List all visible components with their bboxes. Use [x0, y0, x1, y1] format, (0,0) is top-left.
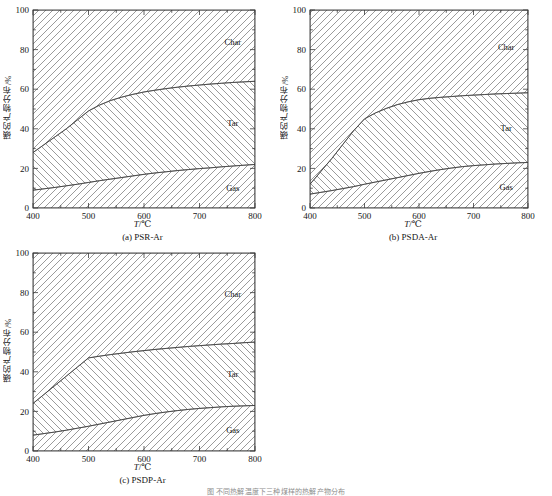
- y-tick-label: 100: [16, 5, 30, 15]
- plot-area-psr-ar: 400500600700800020406080100CharTarGas: [0, 0, 285, 248]
- region-label-char: Char: [225, 289, 242, 299]
- region-label-char: Char: [498, 42, 515, 52]
- panel-psda-ar: 磺的产物分布/% 400500600700800020406080100Char…: [274, 0, 552, 248]
- y-tick-label: 80: [297, 45, 307, 55]
- y-tick-label: 20: [20, 164, 30, 174]
- panel-caption-c: (c) PSDP-Ar: [0, 475, 285, 485]
- x-axis-label: T/℃: [0, 219, 285, 229]
- panel-psr-ar: 磺的产物分布/% 400500600700800020406080100Char…: [0, 0, 285, 248]
- plot-area-psdp-ar: 400500600700800020406080100CharTarGas: [0, 243, 285, 491]
- region-label-char: Char: [225, 37, 242, 47]
- region-label-tar: Tar: [501, 123, 512, 133]
- x-axis-label: T/℃: [0, 462, 285, 472]
- figure-footnote: 图 不同热解温度下三种煤样的热解产物分布: [0, 486, 552, 496]
- y-tick-label: 80: [20, 45, 30, 55]
- y-tick-label: 40: [20, 124, 30, 134]
- figure-root: 磺的产物分布/% 400500600700800020406080100Char…: [0, 0, 552, 496]
- y-tick-label: 80: [20, 288, 30, 298]
- region-label-gas: Gas: [226, 183, 239, 193]
- y-tick-label: 0: [302, 203, 307, 213]
- y-tick-label: 20: [297, 164, 307, 174]
- y-tick-label: 60: [20, 327, 30, 337]
- y-tick-label: 0: [25, 446, 30, 456]
- x-axis-label: T/℃: [274, 219, 552, 229]
- y-tick-label: 60: [297, 84, 307, 94]
- y-tick-label: 40: [297, 124, 307, 134]
- y-tick-label: 100: [293, 5, 307, 15]
- region-label-tar: Tar: [227, 369, 238, 379]
- y-tick-label: 60: [20, 84, 30, 94]
- panel-caption-a: (a) PSR-Ar: [0, 232, 285, 242]
- plot-area-psda-ar: 400500600700800020406080100CharTarGas: [274, 0, 552, 248]
- y-tick-label: 100: [16, 248, 30, 258]
- panel-caption-b: (b) PSDA-Ar: [274, 232, 552, 242]
- panel-psdp-ar: 磺的产物分布/% 400500600700800020406080100Char…: [0, 243, 285, 491]
- y-tick-label: 0: [25, 203, 30, 213]
- region-label-gas: Gas: [500, 182, 513, 192]
- y-tick-label: 40: [20, 367, 30, 377]
- region-label-tar: Tar: [227, 118, 238, 128]
- y-tick-label: 20: [20, 407, 30, 417]
- region-label-gas: Gas: [226, 425, 239, 435]
